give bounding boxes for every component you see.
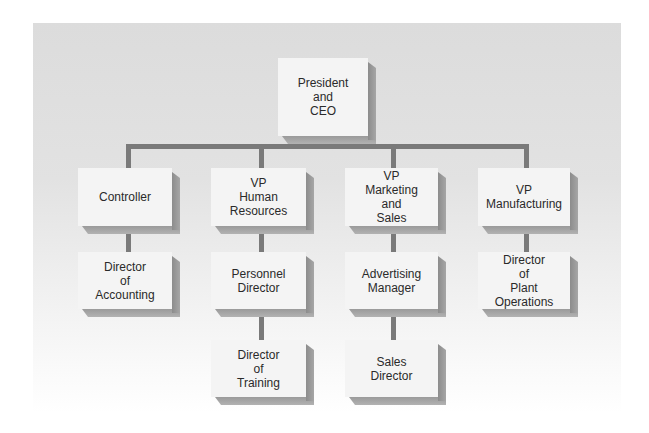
node-label: Advertising Manager bbox=[362, 267, 421, 295]
node-sales-director: Sales Director bbox=[345, 340, 438, 397]
node-label: Controller bbox=[99, 190, 151, 204]
connector-manufacturing-plant bbox=[524, 232, 529, 252]
node-label: President and CEO bbox=[298, 76, 349, 118]
node-label: VP Marketing and Sales bbox=[365, 169, 418, 225]
node-director-training: Director of Training bbox=[211, 340, 306, 397]
connector-to-vp-hr bbox=[259, 144, 264, 168]
node-controller: Controller bbox=[78, 168, 172, 226]
node-personnel-director: Personnel Director bbox=[211, 252, 306, 309]
node-president-ceo: President and CEO bbox=[278, 58, 368, 136]
node-director-plant-operations: Director of Plant Operations bbox=[478, 252, 570, 309]
node-vp-human-resources: VP Human Resources bbox=[211, 168, 306, 226]
connector-to-vp-manufacturing bbox=[524, 144, 529, 168]
node-director-accounting: Director of Accounting bbox=[78, 252, 172, 309]
connector-advertising-sales bbox=[391, 316, 396, 340]
node-label: Director of Training bbox=[237, 348, 280, 390]
node-label: Director of Plant Operations bbox=[495, 253, 554, 309]
connector-to-vp-marketing bbox=[391, 144, 396, 168]
node-vp-manufacturing: VP Manufacturing bbox=[478, 168, 570, 226]
connector-controller-accounting bbox=[126, 232, 131, 252]
node-label: Sales Director bbox=[370, 355, 412, 383]
node-label: Director of Accounting bbox=[95, 260, 154, 302]
connector-personnel-training bbox=[259, 316, 264, 340]
node-advertising-manager: Advertising Manager bbox=[345, 252, 438, 309]
connector-horizontal-bar bbox=[126, 144, 529, 149]
node-vp-marketing-sales: VP Marketing and Sales bbox=[345, 168, 438, 226]
node-label: VP Human Resources bbox=[230, 176, 287, 218]
connector-marketing-advertising bbox=[391, 232, 396, 252]
node-label: Personnel Director bbox=[231, 267, 285, 295]
connector-hr-personnel bbox=[259, 232, 264, 252]
node-label: VP Manufacturing bbox=[486, 183, 562, 211]
connector-to-controller bbox=[126, 144, 131, 168]
